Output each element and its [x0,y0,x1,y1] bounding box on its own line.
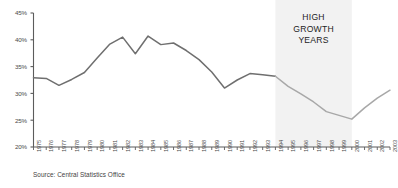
x-axis-tick-label: 2002 [379,140,385,152]
high-growth-years-annotation: HIGH GROWTH YEARS [266,12,362,47]
x-axis-tick-label: 1988 [201,140,207,152]
x-axis-tick-label: 1978 [74,140,80,152]
y-axis-tick-label: 30% [5,90,27,97]
x-axis-tick-label: 1987 [188,140,194,152]
y-axis-tick-label: 40% [5,36,27,43]
x-axis-tick-label: 1981 [112,140,118,152]
x-axis-tick-label: 1986 [176,140,182,152]
annotation-line-2: GROWTH [266,24,362,36]
x-axis-tick-label: 1989 [214,140,220,152]
x-axis-tick-label: 1985 [163,140,169,152]
x-axis-tick-label: 1994 [278,140,284,152]
x-axis-tick-label: 1980 [99,140,105,152]
series-line-primary [34,36,276,88]
x-axis-tick-label: 2001 [367,140,373,152]
x-axis-tick-label: 1996 [303,140,309,152]
y-axis-tick-label: 25% [5,117,27,124]
x-axis-tick-label: 1993 [265,140,271,152]
annotation-line-1: HIGH [266,12,362,24]
x-axis-tick-label: 1984 [150,140,156,152]
x-axis-tick-label: 1979 [87,140,93,152]
y-axis-tick-label: 45% [5,9,27,16]
y-axis-tick-label: 35% [5,63,27,70]
x-axis-tick-label: 1983 [138,140,144,152]
annotation-line-3: YEARS [266,35,362,47]
x-axis-tick-label: 2003 [392,140,398,152]
x-axis-tick-label: 1999 [341,140,347,152]
x-axis-tick-label: 1975 [36,140,42,152]
x-axis-tick-label: 1997 [316,140,322,152]
source-note: Source: Central Statistics Office [33,171,125,178]
x-axis-tick-label: 2000 [354,140,360,152]
x-axis-tick-label: 1992 [252,140,258,152]
x-axis-tick-label: 1998 [329,140,335,152]
x-axis-tick-label: 1991 [239,140,245,152]
x-axis-tick-label: 1976 [48,140,54,152]
x-axis-tick-label: 1982 [125,140,131,152]
x-axis-tick-label: 1990 [227,140,233,152]
y-axis-tick-label: 20% [5,143,27,150]
x-axis-tick-label: 1977 [61,140,67,152]
x-axis-tick-label: 1995 [290,140,296,152]
